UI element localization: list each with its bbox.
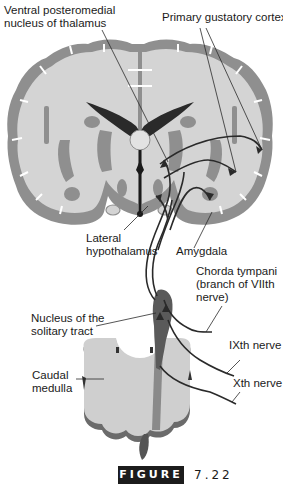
label-chorda-line2: (branch of VIIth [196,278,277,291]
label-xth-nerve: Xth nerve [233,377,282,390]
optic-tract-left [106,205,120,215]
label-vpm-thalamus: Ventral posteromedial nucleus of thalamu… [4,4,115,30]
label-lateral-hypothalamus: Lateral hypothalamus [86,232,158,258]
label-nts-line1: Nucleus of the [31,312,105,325]
label-vpm-line1: Ventral posteromedial [4,4,115,17]
figure-tag: FIGURE [118,466,184,484]
label-nts-line2: solitary tract [31,325,105,338]
label-ixth-nerve: IXth nerve [229,339,281,352]
label-caudal-line2: medulla [32,382,72,395]
label-lateral-hypo-line1: Lateral [86,232,158,245]
label-chorda-tympani: Chorda tympani (branch of VIIth nerve) [196,265,277,304]
label-chorda-line3: nerve) [196,291,277,304]
figure-number: 7.22 [194,466,233,484]
label-vpm-line2: nucleus of thalamus [4,17,115,30]
label-caudal-medulla: Caudal medulla [32,369,72,395]
label-caudal-line1: Caudal [32,369,72,382]
brain-coronal-section [7,40,272,225]
label-amygdala: Amygdala [176,245,227,258]
label-lateral-hypo-line2: hypothalamus [86,245,158,258]
label-primary-gustatory-cortex: Primary gustatory cortex [162,11,283,24]
thalamus [130,130,150,150]
label-nucleus-solitary-tract: Nucleus of the solitary tract [31,312,105,338]
label-chorda-line1: Chorda tympani [196,265,277,278]
